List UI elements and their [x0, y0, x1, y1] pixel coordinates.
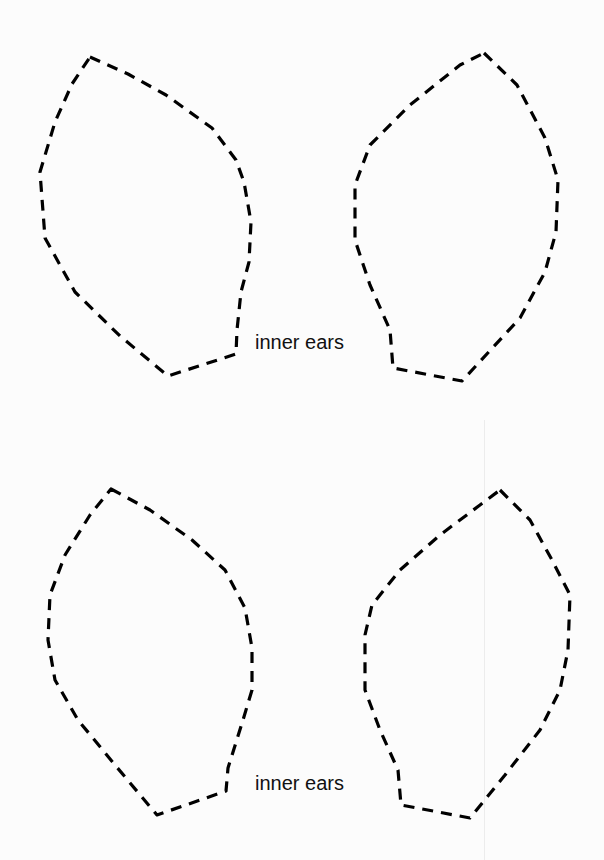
right-inner-ear-top-outline	[355, 53, 558, 381]
right-inner-ear-bottom-outline	[365, 490, 570, 818]
ear-template-canvas	[0, 0, 604, 860]
inner-ears-label-top: inner ears	[255, 331, 344, 354]
inner-ears-label-bottom: inner ears	[255, 772, 344, 795]
bottom-pair	[48, 489, 570, 818]
left-inner-ear-bottom-outline	[48, 489, 252, 815]
left-inner-ear-top-outline	[40, 57, 251, 376]
